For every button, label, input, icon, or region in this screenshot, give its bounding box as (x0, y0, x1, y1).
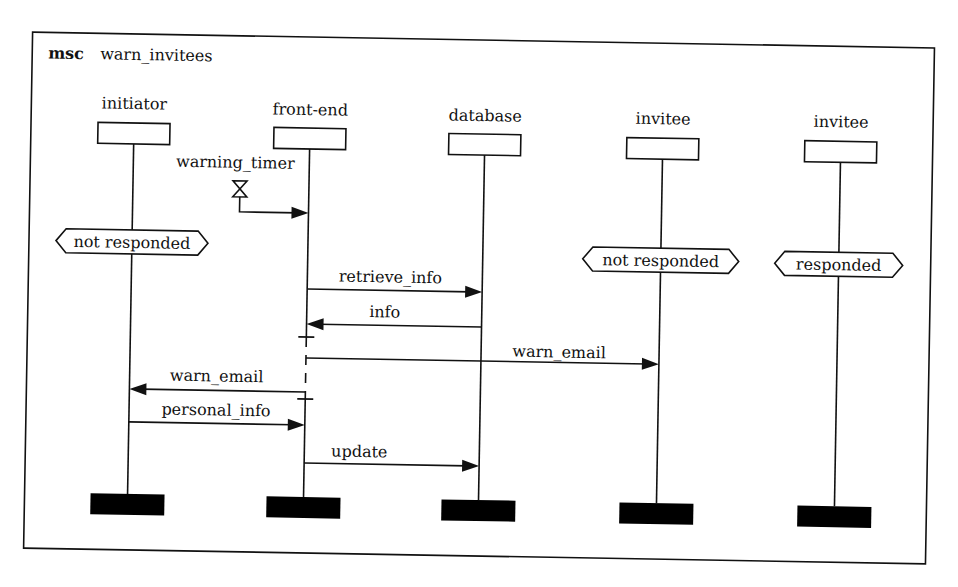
condition-label: responded (796, 255, 882, 275)
lifeline (656, 159, 662, 503)
timer-warning-timer: warning_timer (175, 152, 309, 219)
message-label: info (369, 302, 400, 322)
instance-database: database (441, 105, 522, 521)
arrowhead-icon (306, 318, 323, 330)
instance-invitee-2: invitee (797, 112, 878, 528)
instance-label: invitee (814, 112, 869, 132)
message-label: personal_info (161, 399, 270, 420)
condition-invitee-2: responded (774, 251, 902, 277)
arrowhead-icon (129, 383, 146, 395)
message-label: warn_email (512, 342, 606, 363)
message-warn-email-invitee: warn_email (306, 338, 659, 370)
message-update: update (304, 441, 479, 472)
arrowhead-icon (291, 207, 308, 219)
coregion (305, 337, 306, 399)
message-line (307, 289, 470, 292)
message-warn-email-initiator: warn_email (129, 365, 305, 398)
timeout-line (240, 197, 298, 213)
instance-label: database (448, 105, 522, 125)
msc-keyword: msc (48, 43, 84, 63)
timer-label: warning_timer (176, 152, 295, 173)
message-info: info (306, 301, 481, 333)
instance-invitee-1: invitee (619, 109, 700, 525)
message-line (141, 389, 305, 392)
msc-diagram: msc warn_invitees initiator front-end da… (0, 0, 958, 587)
arrowhead-icon (288, 419, 305, 431)
hourglass-icon (233, 181, 247, 197)
arrowhead-icon (642, 358, 659, 370)
message-personal-info: personal_info (129, 399, 305, 431)
condition-invitee-1: not responded (583, 247, 739, 274)
instance-label: invitee (636, 109, 691, 129)
lifeline (128, 144, 134, 494)
message-line (304, 463, 467, 466)
instance-head (274, 127, 346, 149)
instance-end (90, 493, 164, 515)
message-line (129, 422, 293, 425)
instance-label: initiator (102, 93, 168, 113)
condition-label: not responded (73, 232, 190, 253)
message-label: update (331, 441, 388, 461)
instance-head (626, 138, 698, 160)
message-retrieve-info: retrieve_info (307, 266, 482, 298)
instance-label: front-end (272, 99, 348, 119)
lifeline (306, 149, 309, 337)
message-label: warn_email (170, 366, 264, 387)
lifeline (304, 399, 306, 497)
instance-end (266, 496, 340, 518)
condition-initiator: not responded (56, 229, 208, 256)
condition-label: not responded (602, 250, 719, 271)
arrowhead-icon (465, 286, 482, 298)
instance-head (449, 133, 521, 155)
instance-head (804, 141, 876, 163)
instance-initiator: initiator (90, 93, 171, 515)
instance-head (98, 122, 170, 144)
instance-end (619, 503, 693, 525)
msc-name: warn_invitees (100, 44, 213, 65)
message-line (319, 324, 482, 327)
arrowhead-icon (462, 460, 479, 472)
message-label: retrieve_info (339, 267, 443, 288)
lifeline (834, 162, 840, 506)
instance-end (797, 506, 871, 528)
instance-end (441, 499, 515, 521)
